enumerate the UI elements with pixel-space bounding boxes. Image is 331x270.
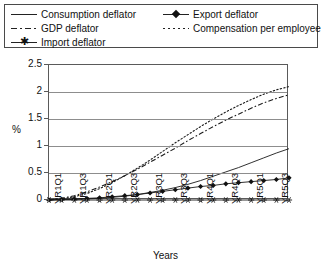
x-axis-tick-mark	[149, 199, 150, 202]
x-axis-tick-mark	[250, 199, 251, 202]
series-marker-diamond	[198, 184, 203, 189]
series-marker-diamond	[147, 190, 152, 195]
y-axis-tick-label: 2.5	[8, 59, 42, 69]
legend-column-left: Consumption deflator GDP deflator ✱ Impo…	[11, 8, 161, 50]
y-axis-title: %	[12, 124, 21, 135]
y-axis-tick-label: 0	[8, 194, 42, 204]
gridline	[49, 92, 287, 93]
x-axis-tick-mark	[73, 199, 74, 202]
x-axis-tick-mark	[200, 199, 201, 202]
x-axis-tick-mark	[48, 199, 49, 202]
y-axis-tick-label: 2	[8, 86, 42, 96]
legend-label-gdp-deflator: GDP deflator	[41, 23, 99, 34]
deflator-line-chart: Consumption deflator GDP deflator ✱ Impo…	[0, 0, 331, 270]
y-axis-tick-label: 1.5	[8, 113, 42, 123]
y-axis-tick-label: 1	[8, 140, 42, 150]
x-axis-tick-mark	[187, 199, 188, 202]
x-axis-tick-mark	[237, 199, 238, 202]
x-axis-tick-mark	[225, 199, 226, 202]
x-axis-title: Years	[0, 250, 331, 261]
solid-line-icon	[11, 9, 37, 20]
legend-item-gdp-deflator: GDP deflator	[11, 22, 161, 35]
series-marker-asterisk	[197, 197, 203, 202]
x-axis-tick-mark	[263, 199, 264, 202]
x-axis-tick-mark	[61, 199, 62, 202]
legend-item-consumption-deflator: Consumption deflator	[11, 8, 161, 21]
legend-item-import-deflator: ✱ Import deflator	[11, 36, 161, 49]
legend-label-export-deflator: Export deflator	[193, 9, 258, 20]
legend-item-export-deflator: Export deflator	[163, 8, 315, 21]
legend-label-import-deflator: Import deflator	[41, 37, 105, 48]
legend-label-compensation-per-employee: Compensation per employee	[193, 23, 321, 34]
x-axis-tick-mark	[275, 199, 276, 202]
y-axis-tick-mark	[44, 64, 48, 65]
x-axis-tick-mark	[86, 199, 87, 202]
y-axis-tick-label: 0.5	[8, 167, 42, 177]
y-axis-tick-mark	[44, 118, 48, 119]
dash-dot-line-icon	[11, 23, 37, 34]
x-axis-tick-mark	[136, 199, 137, 202]
series-marker-diamond	[223, 181, 228, 186]
diamond-line-icon	[163, 9, 189, 20]
gridline	[49, 119, 287, 120]
y-axis-tick-mark	[44, 91, 48, 92]
x-axis-tick-mark	[99, 199, 100, 202]
x-axis-tick-mark	[212, 199, 213, 202]
asterisk-line-icon: ✱	[11, 37, 37, 48]
x-axis-tick-mark	[174, 199, 175, 202]
legend-label-consumption-deflator: Consumption deflator	[41, 9, 136, 20]
series-marker-asterisk	[223, 197, 229, 202]
series-marker-diamond	[249, 179, 254, 184]
y-axis-tick-mark	[44, 172, 48, 173]
x-axis-tick-mark	[162, 199, 163, 202]
legend-item-compensation-per-employee: Compensation per employee	[163, 22, 315, 35]
gridline	[49, 146, 287, 147]
x-axis-tick-mark	[124, 199, 125, 202]
chart-legend: Consumption deflator GDP deflator ✱ Impo…	[4, 4, 318, 48]
x-axis-tick-mark	[111, 199, 112, 202]
dotted-line-icon	[163, 23, 189, 34]
legend-column-right: Export deflator Compensation per employe…	[163, 8, 315, 36]
y-axis-tick-mark	[44, 145, 48, 146]
x-axis-tick-mark	[288, 199, 289, 202]
